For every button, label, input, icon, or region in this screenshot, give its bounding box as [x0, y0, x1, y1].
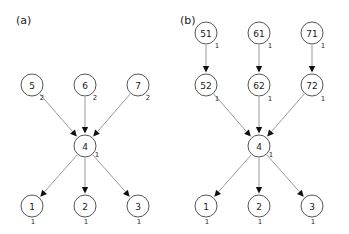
graph-node[interactable]: 52 — [21, 74, 44, 102]
graph-node[interactable]: 11 — [21, 195, 43, 226]
node-label: 52 — [200, 81, 211, 91]
graph-edge — [214, 155, 251, 197]
panel-label: (b) — [180, 14, 196, 27]
node-label: 1 — [29, 202, 35, 212]
node-label: 61 — [253, 29, 264, 39]
graph-edge — [267, 94, 304, 137]
node-sublabel: 1 — [321, 95, 325, 103]
arrowhead-icon — [256, 66, 262, 73]
node-sublabel: 1 — [95, 151, 99, 159]
node-label: 5 — [29, 81, 35, 91]
graph-node[interactable]: 31 — [301, 195, 323, 226]
arrowhead-icon — [203, 66, 209, 73]
node-sublabel: 1 — [268, 95, 272, 103]
graph-node[interactable]: 521 — [195, 74, 219, 103]
graph-canvas: 5262724111213151161171152162172141112131… — [0, 0, 349, 234]
node-label: 62 — [253, 81, 264, 91]
graph-node[interactable]: 21 — [74, 195, 96, 226]
figure-container: 5262724111213151161171152162172141112131… — [0, 0, 349, 234]
graph-edge — [256, 97, 262, 134]
node-sublabel: 2 — [93, 94, 97, 102]
graph-node[interactable]: 11 — [195, 195, 217, 226]
node-label: 3 — [135, 202, 141, 212]
graph-node[interactable]: 711 — [301, 22, 325, 50]
graph-edge — [267, 155, 304, 197]
graph-edge — [82, 158, 88, 194]
node-sublabel: 2 — [146, 94, 150, 102]
node-sublabel: 1 — [205, 218, 209, 226]
graph-node[interactable]: 41 — [74, 135, 99, 159]
node-sublabel: 1 — [215, 42, 219, 50]
edges-layer — [40, 45, 315, 197]
node-sublabel: 1 — [258, 218, 262, 226]
node-label: 4 — [82, 142, 88, 152]
arrowhead-icon — [256, 187, 262, 194]
node-label: 1 — [203, 202, 209, 212]
node-sublabel: 1 — [137, 218, 141, 226]
nodes-layer: 5262724111213151161171152162172141112131 — [21, 22, 325, 226]
panel-label: (a) — [16, 14, 31, 27]
graph-node[interactable]: 511 — [195, 22, 219, 50]
edge-line — [45, 155, 77, 192]
node-sublabel: 1 — [31, 218, 35, 226]
graph-edge — [82, 97, 88, 134]
node-label: 3 — [309, 202, 315, 212]
edge-line — [93, 155, 125, 192]
node-label: 2 — [82, 202, 88, 212]
node-label: 51 — [200, 29, 211, 39]
node-sublabel: 1 — [311, 218, 315, 226]
node-sublabel: 2 — [40, 94, 44, 102]
node-label: 71 — [306, 29, 317, 39]
node-label: 4 — [256, 142, 262, 152]
edge-line — [97, 94, 130, 132]
arrowhead-icon — [82, 127, 88, 134]
graph-node[interactable]: 721 — [301, 74, 325, 103]
graph-node[interactable]: 611 — [248, 22, 272, 50]
graph-node[interactable]: 41 — [248, 135, 273, 159]
edge-line — [271, 94, 304, 132]
graph-node[interactable]: 21 — [248, 195, 270, 226]
graph-edge — [93, 155, 130, 197]
graph-edge — [93, 94, 130, 137]
node-sublabel: 1 — [268, 42, 272, 50]
arrowhead-icon — [82, 187, 88, 194]
graph-edge — [309, 45, 315, 73]
node-label: 6 — [82, 81, 88, 91]
node-label: 7 — [135, 81, 141, 91]
graph-edge — [40, 94, 77, 137]
edge-line — [40, 94, 73, 132]
arrowhead-icon — [309, 66, 315, 73]
graph-node[interactable]: 31 — [127, 195, 149, 226]
panel-labels-layer: (a)(b) — [16, 14, 196, 27]
edge-line — [219, 155, 251, 192]
graph-node[interactable]: 62 — [74, 74, 97, 102]
graph-node[interactable]: 621 — [248, 74, 272, 103]
node-label: 2 — [256, 202, 262, 212]
graph-edge — [214, 94, 251, 137]
graph-node[interactable]: 72 — [127, 74, 150, 102]
node-sublabel: 1 — [215, 95, 219, 103]
graph-edge — [203, 45, 209, 73]
graph-edge — [40, 155, 77, 197]
graph-edge — [256, 158, 262, 194]
node-label: 72 — [306, 81, 317, 91]
node-sublabel: 1 — [269, 151, 273, 159]
arrowhead-icon — [256, 127, 262, 134]
node-sublabel: 1 — [84, 218, 88, 226]
node-sublabel: 1 — [321, 42, 325, 50]
graph-edge — [256, 45, 262, 73]
edge-line — [267, 155, 299, 192]
